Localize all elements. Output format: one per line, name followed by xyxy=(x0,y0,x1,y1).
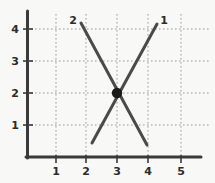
x-tick-label-2: 2 xyxy=(82,166,90,177)
y-tick-label-1: 1 xyxy=(11,120,19,131)
vertical-gridlines xyxy=(56,14,181,157)
series-label-2: 2 xyxy=(69,15,77,26)
intersection-point-marker xyxy=(112,88,122,98)
series-line-2 xyxy=(81,23,147,145)
horizontal-gridlines xyxy=(27,29,209,125)
chart-screenshot: 1 2 3 4 5 4 3 2 1 2 1 xyxy=(0,0,215,183)
line-chart xyxy=(0,0,215,183)
series-label-1: 1 xyxy=(160,15,168,26)
x-tick-label-3: 3 xyxy=(113,166,121,177)
data-series xyxy=(81,23,157,145)
x-tick-label-5: 5 xyxy=(177,166,185,177)
y-tick-label-4: 4 xyxy=(11,24,19,35)
y-tick-label-3: 3 xyxy=(11,56,19,67)
y-tick-label-2: 2 xyxy=(11,88,19,99)
x-tick-label-4: 4 xyxy=(144,166,152,177)
x-tick-label-1: 1 xyxy=(52,166,60,177)
